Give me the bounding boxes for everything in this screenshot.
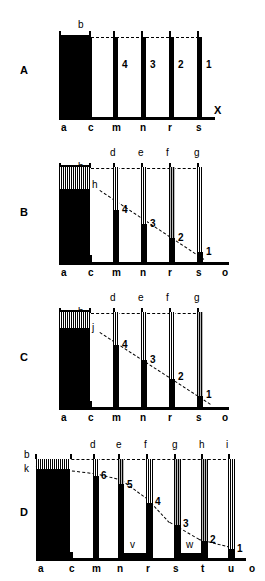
bar-s-hatch	[174, 459, 181, 525]
bar-m-solid	[113, 210, 119, 262]
bar-m-solid	[113, 345, 119, 407]
bar-n-solid	[141, 224, 147, 262]
guide-label-g: g	[194, 148, 200, 158]
bar-n-hatch	[141, 312, 147, 360]
guide-label-f: f	[144, 440, 147, 450]
bar-s-solid	[197, 252, 203, 262]
bar-r-hatch	[169, 312, 175, 379]
bar-r-hatch	[146, 459, 153, 503]
x-tick-label-a: a	[61, 413, 67, 423]
panel-letter-c: C	[20, 352, 28, 363]
x-tick-label-r: r	[146, 564, 150, 574]
x-tick-label-s: s	[173, 564, 179, 574]
bar-s-solid	[197, 396, 203, 407]
bar-r-solid	[169, 379, 175, 407]
guide-label-b: b	[24, 450, 30, 460]
bar-n-hatch	[141, 167, 147, 224]
guide-label-d: d	[110, 293, 116, 303]
panel-b: B b d e f g h 4	[0, 145, 265, 285]
bar-n-solid	[141, 360, 147, 407]
guide-label-e: e	[138, 148, 144, 158]
bar-r-hatch	[169, 167, 175, 238]
x-tick-label-r: r	[168, 268, 172, 278]
bar-n	[141, 37, 146, 117]
x-tick-label-a: a	[38, 564, 44, 574]
x-tick-label-m: m	[112, 123, 121, 133]
guide-label-e: e	[116, 440, 122, 450]
bar-t-solid	[201, 541, 208, 558]
guide-label-j: j	[92, 323, 94, 333]
x-tick-label-r: r	[168, 123, 172, 133]
x-tick-label-n: n	[140, 123, 146, 133]
x-tick-label-s: s	[196, 123, 202, 133]
guide-label-b: b	[78, 20, 84, 30]
panel-c: C b d e f g j 4 3 2 1 a c m	[0, 290, 265, 430]
x-axis	[59, 117, 215, 120]
x-tick-label-m: m	[112, 413, 121, 423]
bar-a-hatch	[59, 167, 90, 189]
bar-number-2: 2	[178, 372, 184, 382]
guide-label-g: g	[172, 440, 178, 450]
bar-u-hatch	[228, 459, 235, 549]
bar-a-solid	[36, 469, 70, 558]
bar-a-hatch	[59, 312, 90, 328]
axis-name-x: X	[214, 105, 221, 116]
bar-number-4: 4	[155, 497, 161, 507]
x-tick-label-m: m	[92, 564, 101, 574]
bar-n-hatch	[118, 459, 124, 484]
bar-s-hatch	[197, 312, 203, 396]
bar-number-5: 5	[127, 480, 133, 490]
bar-number-2: 2	[178, 60, 184, 70]
x-axis	[59, 407, 229, 410]
x-tick-label-s: s	[196, 268, 202, 278]
guide-label-f: f	[166, 148, 169, 158]
bar-a-hatch	[36, 459, 70, 469]
bar-number-2: 2	[210, 535, 216, 545]
x-tick-label-c: c	[88, 268, 94, 278]
x-tick-label-c: c	[88, 413, 94, 423]
bar-m-solid	[93, 476, 99, 558]
x-tick-label-a: a	[61, 123, 67, 133]
guide-label-v: v	[130, 540, 135, 550]
bar-number-1: 1	[206, 390, 212, 400]
x-tick-label-s: s	[196, 413, 202, 423]
bar-r-solid	[146, 503, 153, 558]
bar-number-2: 2	[178, 233, 184, 243]
guide-label-k: k	[24, 464, 29, 474]
bar-m-hatch	[113, 167, 119, 210]
bar-a-solid	[59, 189, 90, 262]
bar-m-hatch	[113, 312, 119, 345]
x-tick-label-n: n	[140, 413, 146, 423]
x-tick-label-m: m	[112, 268, 121, 278]
bar-number-6: 6	[101, 471, 107, 481]
bar-u-solid	[228, 549, 235, 558]
panel-a: A b 4 3 2 1 X a c m n r s	[0, 0, 265, 140]
guide-label-e: e	[138, 293, 144, 303]
x-tick-label-o: o	[222, 413, 228, 423]
x-tick-label-u: u	[228, 564, 234, 574]
bar-s-hatch	[197, 167, 203, 252]
bar-s-solid	[174, 525, 181, 558]
bar-number-3: 3	[150, 219, 156, 229]
x-tick-label-n: n	[140, 268, 146, 278]
x-tick-label-r: r	[168, 413, 172, 423]
panel-letter-d: D	[20, 507, 28, 518]
guide-label-w: w	[186, 540, 193, 550]
x-tick-label-o: o	[222, 268, 228, 278]
bar-a-solid	[59, 328, 90, 407]
bar-s	[197, 37, 202, 117]
x-tick-label-a: a	[61, 268, 67, 278]
bar-c	[89, 37, 92, 117]
guide-label-d: d	[90, 440, 96, 450]
bar-number-4: 4	[122, 205, 128, 215]
x-axis	[36, 558, 246, 561]
bar-m-hatch	[93, 459, 99, 476]
bar-c	[89, 255, 92, 262]
bar-number-1: 1	[237, 544, 243, 554]
guide-label-h: h	[92, 180, 98, 190]
x-tick-label-c: c	[69, 564, 75, 574]
bar-number-4: 4	[122, 340, 128, 350]
bar-m	[113, 37, 118, 117]
bar-t-hatch	[201, 459, 208, 541]
x-tick-label-t: t	[201, 564, 204, 574]
